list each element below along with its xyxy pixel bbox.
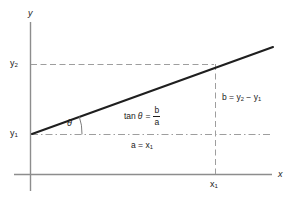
x1-tick-label: x1 [210,180,218,189]
formula-numerator: b [153,106,160,116]
run-variable: a [131,140,136,150]
run-annotation: a = x1 [131,141,153,151]
run-value-subscript: 1 [150,144,153,150]
y2-tick-subscript: 2 [15,61,18,68]
formula-denominator: a [153,116,160,127]
rise-term2-subscript: 1 [258,96,261,102]
theta-symbol: θ [67,119,72,128]
rise-annotation: b = y2 − y1 [222,93,261,103]
formula-fraction: b a [153,106,160,126]
x1-tick-subscript: 1 [215,182,218,189]
y2-tick-label: y2 [10,59,18,68]
rise-term1-subscript: 2 [241,96,244,102]
line-slope-diagram: y x y2 y1 x1 θ tan θ = b a a = x1 b = y2… [0,0,293,197]
y1-tick-label: y1 [10,129,18,138]
y-axis-label: y [28,9,33,18]
rise-minus: − [246,92,251,102]
y1-tick-subscript: 1 [15,131,18,138]
slope-formula: tan θ = b a [124,106,160,126]
formula-theta-symbol: θ [138,111,143,121]
theta-angle-arc [79,116,82,134]
x-axis-label: x [278,170,283,179]
formula-tan-label: tan [124,111,136,121]
formula-equals-sign: = [145,111,150,121]
rise-equals: = [229,92,234,102]
run-equals: = [138,140,143,150]
rise-variable: b [222,92,227,102]
